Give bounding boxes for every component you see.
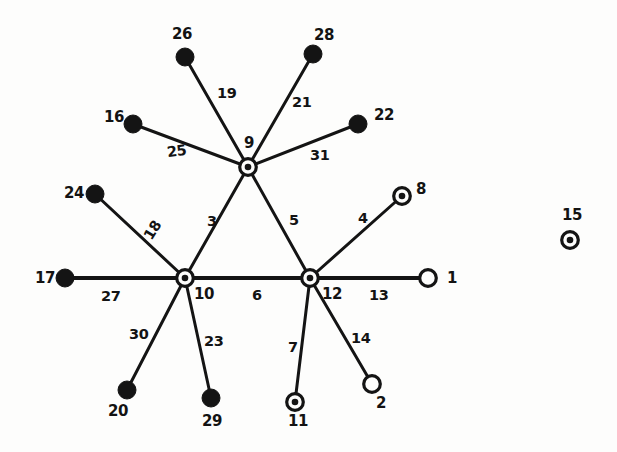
graph-svg (0, 0, 617, 452)
node-label-26: 26 (172, 27, 192, 42)
graph-edge-31 (248, 124, 358, 167)
node-disc-filled (176, 48, 194, 66)
edge-label-25: 25 (166, 143, 187, 160)
node-label-29: 29 (202, 414, 222, 429)
graph-node-17[interactable] (56, 269, 74, 287)
node-ring-dot (182, 275, 189, 282)
node-label-2: 2 (376, 396, 386, 411)
graph-node-28[interactable] (304, 45, 322, 63)
graph-node-29[interactable] (202, 389, 220, 407)
graph-node-11[interactable] (287, 394, 304, 411)
edge-label-27: 27 (101, 289, 120, 304)
graph-edge-21 (248, 54, 313, 167)
node-disc-filled (349, 115, 367, 133)
node-label-8: 8 (416, 182, 426, 197)
node-ring-dot (292, 399, 299, 406)
edge-label-19: 19 (217, 86, 236, 101)
edge-label-7: 7 (288, 340, 298, 355)
graph-node-10[interactable] (177, 270, 194, 287)
edge-label-14: 14 (351, 331, 370, 346)
graph-node-22[interactable] (349, 115, 367, 133)
graph-diagram-canvas: 3456713141819212325273031128910111215161… (0, 0, 617, 452)
node-ring-dot (399, 193, 406, 200)
edge-label-4: 4 (358, 211, 368, 226)
graph-edge-19 (185, 57, 248, 167)
node-label-20: 20 (108, 404, 128, 419)
node-circle-open (364, 376, 381, 393)
edge-label-31: 31 (310, 148, 329, 163)
node-ring-dot (307, 275, 314, 282)
edge-label-13: 13 (369, 288, 388, 303)
nodes-layer (56, 45, 578, 410)
graph-node-16[interactable] (124, 115, 142, 133)
graph-edge-4 (310, 196, 402, 278)
graph-node-24[interactable] (86, 185, 104, 203)
node-disc-filled (118, 381, 136, 399)
graph-node-15[interactable] (562, 232, 579, 249)
graph-node-2[interactable] (364, 376, 381, 393)
edge-label-5: 5 (289, 213, 299, 228)
edge-label-21: 21 (292, 95, 311, 110)
node-label-10: 10 (194, 287, 214, 302)
graph-node-26[interactable] (176, 48, 194, 66)
node-disc-filled (202, 389, 220, 407)
node-label-24: 24 (64, 186, 84, 201)
edge-label-23: 23 (204, 334, 223, 349)
graph-node-12[interactable] (302, 270, 319, 287)
graph-node-8[interactable] (394, 188, 411, 205)
edge-label-6: 6 (252, 288, 262, 303)
node-label-11: 11 (288, 414, 308, 429)
graph-edge-25 (133, 124, 248, 167)
node-label-28: 28 (314, 28, 334, 43)
graph-node-20[interactable] (118, 381, 136, 399)
graph-node-9[interactable] (240, 159, 257, 176)
node-label-1: 1 (447, 271, 457, 286)
node-label-17: 17 (35, 271, 55, 286)
node-ring-dot (567, 237, 574, 244)
node-label-22: 22 (374, 108, 394, 123)
node-disc-filled (86, 185, 104, 203)
graph-edge-5 (248, 167, 310, 278)
node-label-16: 16 (104, 110, 124, 125)
node-label-15: 15 (562, 208, 582, 223)
edge-label-30: 30 (129, 327, 148, 342)
node-label-9: 9 (244, 136, 254, 151)
graph-edge-18 (95, 194, 185, 278)
node-disc-filled (56, 269, 74, 287)
node-label-12: 12 (322, 287, 342, 302)
graph-node-1[interactable] (420, 270, 437, 287)
edge-label-3: 3 (207, 214, 217, 229)
node-ring-dot (245, 164, 252, 171)
node-circle-open (420, 270, 437, 287)
node-disc-filled (304, 45, 322, 63)
node-disc-filled (124, 115, 142, 133)
